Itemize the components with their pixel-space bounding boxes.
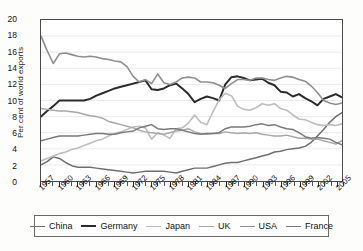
y-tick-label: 12	[0, 79, 17, 89]
legend-item-usa[interactable]: USA	[240, 221, 278, 231]
legend-label: China	[49, 221, 73, 231]
legend-label: USA	[259, 221, 278, 231]
legend-swatch-icon	[199, 226, 214, 227]
y-tick-label: 6	[0, 128, 17, 138]
series-line-china	[41, 113, 342, 173]
legend-label: UK	[218, 221, 231, 231]
plot-area	[40, 19, 343, 182]
y-tick-label: 10	[0, 96, 17, 106]
y-tick-label: 4	[0, 144, 17, 154]
y-tick-label: 16	[0, 47, 17, 57]
legend-item-germany[interactable]: Germany	[81, 221, 137, 231]
legend-item-japan[interactable]: Japan	[146, 221, 190, 231]
chart-legend: ChinaGermanyJapanUKUSAFrance	[34, 215, 329, 237]
legend-item-uk[interactable]: UK	[199, 221, 231, 231]
series-line-japan	[41, 93, 342, 161]
chart-figure: Per cent of world exports 20181614121086…	[0, 0, 363, 251]
y-tick-label: 8	[0, 112, 17, 122]
series-line-uk	[41, 109, 342, 144]
series-line-germany	[41, 76, 342, 116]
legend-swatch-icon	[30, 226, 45, 227]
y-tick-label: 2	[0, 161, 17, 171]
legend-label: Germany	[100, 221, 137, 231]
y-tick-label: 14	[0, 63, 17, 73]
legend-swatch-icon	[146, 226, 161, 227]
y-tick-label: 20	[0, 14, 17, 24]
legend-swatch-icon	[240, 226, 255, 227]
y-tick-label: 18	[0, 30, 17, 40]
series-lines	[41, 20, 342, 181]
legend-label: France	[305, 221, 333, 231]
series-line-france	[41, 124, 342, 145]
legend-swatch-icon	[286, 226, 301, 227]
legend-item-china[interactable]: China	[30, 221, 73, 231]
legend-item-france[interactable]: France	[286, 221, 333, 231]
legend-swatch-icon	[81, 225, 96, 227]
legend-label: Japan	[165, 221, 190, 231]
